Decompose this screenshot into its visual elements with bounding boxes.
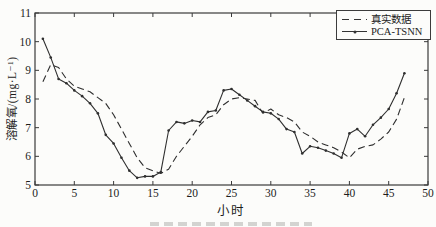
data-point-marker (152, 175, 155, 178)
legend-label-pca-tsnn: PCA-TSNN (371, 26, 422, 37)
x-tick-label: 20 (186, 187, 198, 199)
x-tick-label: 45 (383, 187, 395, 199)
dashed-line-sample-icon (342, 19, 367, 21)
x-tick-label: 15 (147, 187, 159, 199)
data-point-marker (348, 132, 351, 135)
y-tick-label: 9 (25, 64, 31, 76)
x-tick-label: 25 (226, 187, 238, 199)
legend-box: 真实数据 PCA-TSNN (336, 10, 431, 40)
legend-entry-real-data: 真实数据 (342, 14, 426, 25)
data-point-marker (222, 89, 225, 92)
data-point-marker (120, 156, 123, 159)
data-point-marker (403, 72, 406, 75)
series-line-0 (43, 65, 405, 174)
x-tick-label: 0 (32, 187, 38, 199)
data-point-marker (380, 116, 383, 119)
y-tick-label: 5 (25, 179, 31, 191)
data-point-marker (395, 92, 398, 95)
series-line-1 (43, 39, 405, 178)
data-point-marker (277, 118, 280, 121)
clipped-figure-caption (150, 222, 312, 226)
data-point-marker (183, 122, 186, 125)
x-tick-label: 40 (344, 187, 356, 199)
data-point-marker (254, 105, 257, 108)
data-point-marker (372, 124, 375, 127)
y-tick-label: 6 (25, 150, 31, 162)
y-tick-label: 11 (20, 7, 31, 19)
data-point-marker (112, 142, 115, 145)
data-point-marker (238, 93, 241, 96)
data-point-marker (246, 99, 249, 102)
legend-entry-pca-tsnn: PCA-TSNN (342, 26, 426, 37)
data-point-marker (317, 146, 320, 149)
data-point-marker (387, 108, 390, 111)
data-point-marker (42, 38, 45, 41)
data-point-marker (340, 156, 343, 159)
data-point-marker (89, 102, 92, 105)
dissolved-oxygen-prediction-figure: 05101520253035404550567891011 溶解氧/(mg·L⁻… (0, 0, 436, 227)
data-point-marker (73, 89, 76, 92)
data-point-marker (128, 169, 131, 172)
data-point-marker (207, 111, 210, 114)
data-point-marker (144, 175, 147, 178)
y-tick-label: 10 (20, 36, 32, 48)
data-point-marker (364, 135, 367, 138)
data-point-marker (325, 149, 328, 152)
data-point-marker (262, 111, 265, 114)
solid-dot-line-sample-icon (342, 31, 367, 33)
y-tick-label: 8 (25, 93, 31, 105)
data-point-marker (199, 121, 202, 124)
data-point-marker (167, 129, 170, 132)
y-axis-label: 溶解氧/(mg·L⁻¹) (3, 57, 19, 142)
data-point-marker (191, 119, 194, 122)
data-point-marker (136, 177, 139, 180)
data-point-marker (270, 112, 273, 115)
data-point-marker (97, 112, 100, 115)
data-point-marker (285, 128, 288, 131)
x-tick-label: 50 (422, 187, 434, 199)
data-point-marker (57, 78, 60, 81)
x-tick-label: 30 (265, 187, 277, 199)
data-point-marker (332, 152, 335, 155)
data-point-marker (81, 95, 84, 98)
y-tick-label: 7 (25, 122, 31, 134)
legend-label-real-data: 真实数据 (371, 14, 411, 25)
data-point-marker (230, 88, 233, 91)
data-point-marker (65, 82, 68, 85)
data-point-marker (214, 109, 217, 112)
data-point-marker (356, 128, 359, 131)
data-point-marker (309, 145, 312, 148)
x-tick-label: 35 (304, 187, 316, 199)
data-point-marker (301, 152, 304, 155)
data-point-marker (159, 171, 162, 174)
x-tick-label: 5 (71, 187, 77, 199)
x-tick-label: 10 (108, 187, 120, 199)
x-axis-label: 小时 (217, 200, 245, 219)
data-point-marker (104, 134, 107, 137)
data-point-marker (293, 131, 296, 134)
data-point-marker (49, 56, 52, 59)
data-point-marker (175, 121, 178, 124)
